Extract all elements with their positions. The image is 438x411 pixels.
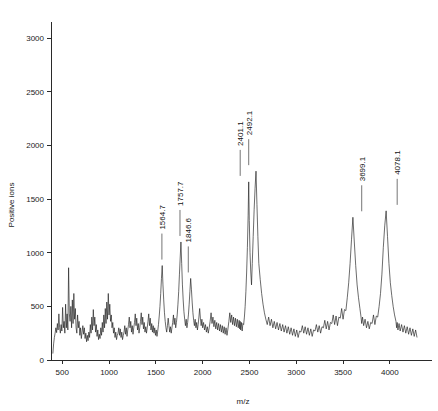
y-tick-label: 2500: [26, 88, 44, 97]
spectrum-plot: 050010001500200025003000 500100015002000…: [0, 0, 438, 411]
peak-label: 1564.7: [158, 205, 167, 230]
x-tick-label: 1500: [147, 368, 165, 377]
x-tick-label: 3500: [334, 368, 352, 377]
y-tick-label: 500: [31, 302, 45, 311]
peak-label: 2492.1: [245, 110, 254, 135]
figure-background: [0, 0, 438, 411]
x-tick-label: 4000: [381, 368, 399, 377]
peak-label: 3699.1: [358, 156, 367, 181]
y-tick-label: 1500: [26, 195, 44, 204]
y-tick-label: 0: [40, 356, 45, 365]
mass-spectrum-figure: 050010001500200025003000 500100015002000…: [0, 0, 438, 411]
y-tick-label: 1000: [26, 249, 44, 258]
y-axis-title: Positive ions: [7, 183, 16, 228]
x-tick-label: 1000: [100, 368, 118, 377]
peak-label: 1757.7: [176, 181, 185, 206]
peak-label: 4078.1: [393, 150, 402, 175]
y-tick-label: 3000: [26, 34, 44, 43]
x-tick-label: 2500: [241, 368, 259, 377]
y-tick-label: 2000: [26, 141, 44, 150]
x-tick-label: 3000: [287, 368, 305, 377]
x-tick-label: 2000: [194, 368, 212, 377]
x-tick-label: 500: [56, 368, 70, 377]
peak-label: 1846.6: [184, 217, 193, 242]
x-axis-title: m/z: [237, 397, 250, 406]
